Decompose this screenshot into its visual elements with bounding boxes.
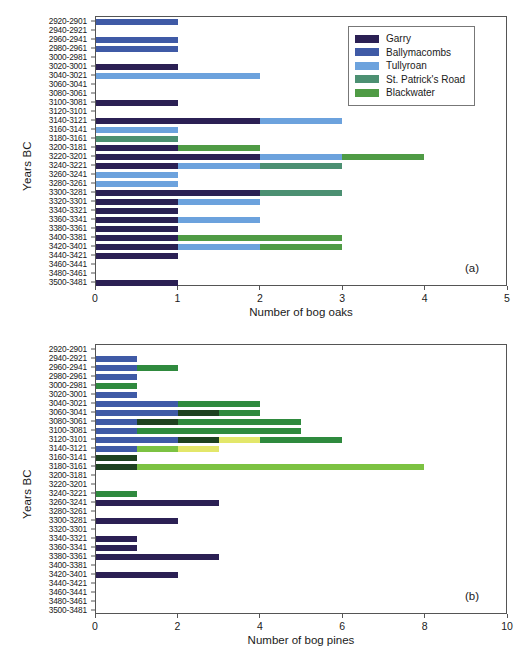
x-tick-mark: [507, 286, 508, 290]
stacked-bar: [96, 235, 342, 241]
bar-row: [96, 408, 506, 417]
legend-label: Garry: [386, 33, 411, 44]
bar-segment: [96, 572, 178, 578]
bar-segment: [96, 37, 178, 43]
stacked-bar: [96, 554, 219, 560]
x-tick-mark: [424, 286, 425, 290]
bar-segment: [137, 464, 424, 470]
y-axis-ticks-a: 2920-29012940-29212960-29412980-29613000…: [0, 16, 95, 286]
stacked-bar: [96, 437, 342, 443]
bar-segment: [96, 392, 137, 398]
x-tick-label: 6: [339, 620, 345, 632]
panel-b-bog-pines: Years BC 2920-29012940-29212960-29412980…: [0, 328, 522, 660]
bar-row: [96, 516, 506, 525]
bar-row: [96, 561, 506, 570]
x-tick-mark: [259, 286, 260, 290]
bar-row: [96, 251, 506, 260]
bar-segment: [260, 437, 342, 443]
bar-segment: [96, 410, 178, 416]
bar-row: [96, 197, 506, 206]
bar-row: [96, 161, 506, 170]
x-tick-label: 8: [422, 620, 428, 632]
bar-segment: [178, 163, 260, 169]
bar-row: [96, 269, 506, 278]
x-tick-label: 2: [257, 292, 263, 304]
bar-segment: [96, 518, 178, 524]
x-tick-label: 0: [92, 292, 98, 304]
bar-row: [96, 242, 506, 251]
y-tick-label: 3500-3481: [49, 605, 87, 615]
stacked-bar: [96, 217, 260, 223]
bar-segment: [178, 410, 219, 416]
bar-row: [96, 125, 506, 134]
x-tick-mark: [95, 286, 96, 290]
x-tick-mark: [507, 614, 508, 618]
stacked-bar: [96, 145, 260, 151]
bar-row: [96, 426, 506, 435]
bar-row: [96, 215, 506, 224]
bar-segment: [96, 383, 137, 389]
bar-row: [96, 462, 506, 471]
legend-swatch-icon: [355, 89, 379, 97]
stacked-bar: [96, 100, 178, 106]
stacked-bar: [96, 118, 342, 124]
legend-swatch-icon: [355, 48, 379, 56]
x-tick-mark: [424, 614, 425, 618]
x-tick-mark: [342, 614, 343, 618]
stacked-bar: [96, 73, 260, 79]
bar-segment: [96, 428, 137, 434]
stacked-bar: [96, 356, 137, 362]
bar-segment: [178, 437, 219, 443]
x-tick-mark: [177, 286, 178, 290]
bar-row: [96, 354, 506, 363]
bar-row: [96, 579, 506, 588]
bar-row: [96, 480, 506, 489]
x-tick-label: 3: [339, 292, 345, 304]
legend-swatch-icon: [355, 35, 379, 43]
stacked-bar: [96, 464, 424, 470]
x-tick-mark: [342, 286, 343, 290]
bar-row: [96, 507, 506, 516]
bar-row: [96, 525, 506, 534]
legend-item: Ballymacombs: [355, 46, 465, 60]
bar-segment: [96, 64, 178, 70]
legend-a: GarryBallymacombsTullyroanSt. Patrick's …: [348, 26, 475, 106]
bar-segment: [219, 410, 260, 416]
x-axis-b: Number of bog pines 0246810: [95, 614, 507, 648]
bar-segment: [96, 136, 178, 142]
bar-segment: [96, 244, 178, 250]
legend-label: Tullyroan: [386, 60, 427, 71]
bar-segment: [96, 500, 219, 506]
bar-segment: [96, 46, 178, 52]
bar-segment: [137, 365, 178, 371]
stacked-bar: [96, 383, 137, 389]
bar-segment: [96, 356, 137, 362]
y-tick-label: 3500-3481: [49, 277, 87, 287]
stacked-bar: [96, 136, 178, 142]
stacked-bar: [96, 127, 178, 133]
bar-segment: [96, 491, 137, 497]
legend-label: Ballymacombs: [386, 47, 451, 58]
x-tick-mark: [177, 614, 178, 618]
bar-row: [96, 552, 506, 561]
stacked-bar: [96, 199, 260, 205]
bar-segment: [137, 419, 178, 425]
stacked-bar: [96, 190, 342, 196]
bar-row: [96, 453, 506, 462]
legend-label: St. Patrick's Road: [386, 74, 465, 85]
bar-row: [96, 534, 506, 543]
x-axis-title-a: Number of bog oaks: [95, 306, 507, 318]
stacked-bar: [96, 181, 178, 187]
stacked-bar: [96, 226, 178, 232]
bar-segment: [178, 446, 219, 452]
bar-segment: [96, 226, 178, 232]
stacked-bar: [96, 280, 178, 286]
bar-segment: [137, 446, 178, 452]
stacked-bar: [96, 253, 178, 259]
bar-segment: [178, 419, 301, 425]
bar-segment: [96, 253, 178, 259]
bars-container-b: [96, 345, 506, 613]
bar-segment: [96, 145, 178, 151]
stacked-bar: [96, 37, 178, 43]
bar-segment: [96, 199, 178, 205]
